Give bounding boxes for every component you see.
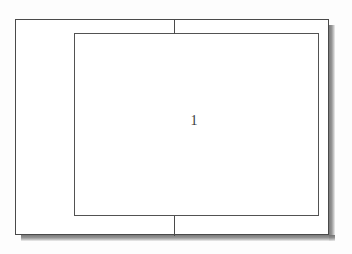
bottom-connector-line <box>174 216 175 236</box>
diagram-canvas: 1 <box>0 0 352 254</box>
top-connector-line <box>174 19 175 34</box>
reference-numeral-label: 1 <box>186 111 202 131</box>
frame-drop-shadow-right <box>329 25 335 241</box>
frame-drop-shadow-bottom <box>21 235 335 241</box>
